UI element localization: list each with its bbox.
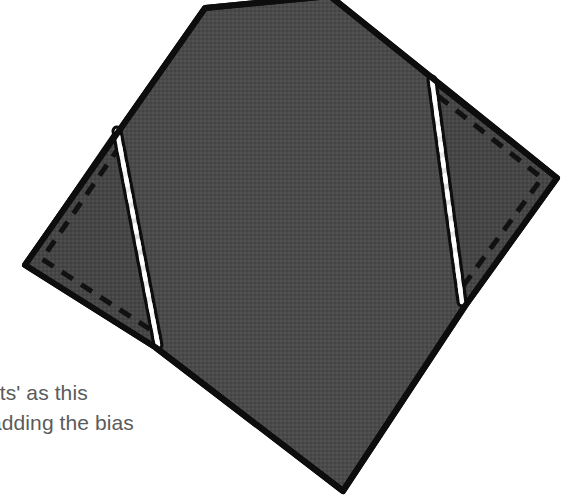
- figure-page: ets' as this adding the bias: [0, 0, 569, 503]
- caption: ets' as this adding the bias: [0, 378, 300, 438]
- caption-line-2: adding the bias: [0, 408, 300, 438]
- caption-line-1: ets' as this: [0, 378, 300, 408]
